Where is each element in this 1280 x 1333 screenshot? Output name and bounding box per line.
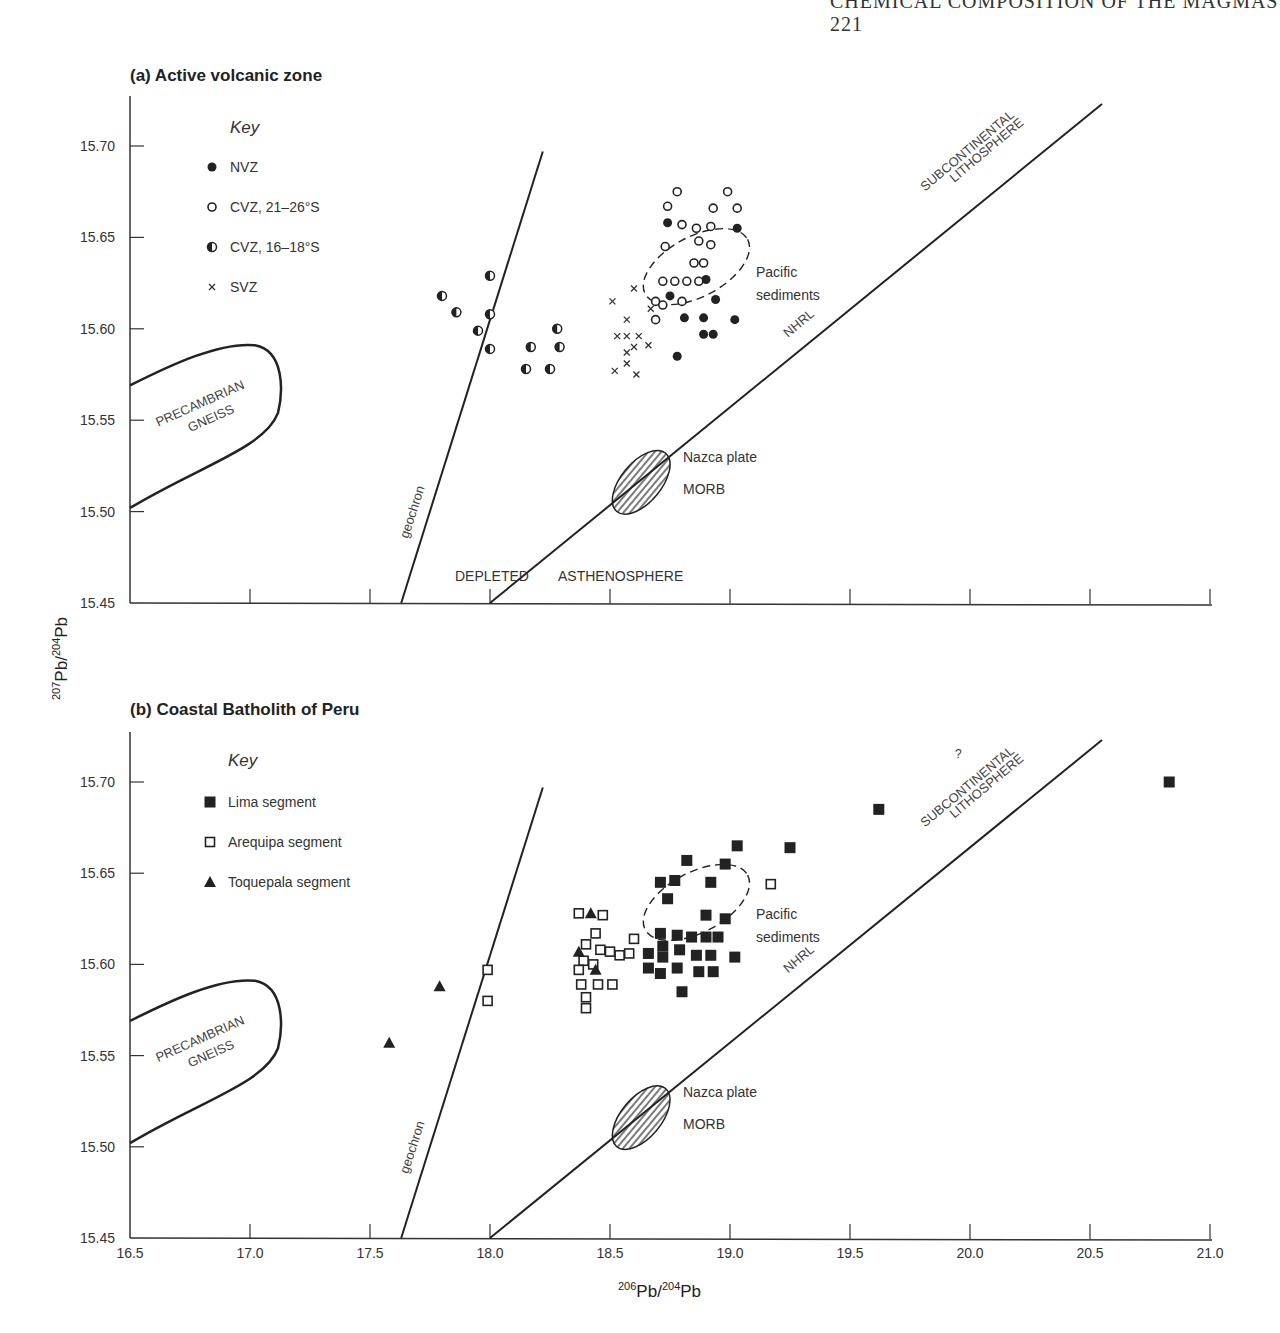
data-point	[661, 243, 669, 251]
data-point	[598, 911, 607, 920]
question-mark: ?	[955, 747, 962, 761]
legend-item: Arequipa segment	[206, 834, 342, 850]
data-point	[486, 271, 495, 280]
data-point	[673, 352, 682, 361]
data-point	[720, 913, 731, 924]
data-point	[643, 963, 654, 974]
data-point	[652, 316, 660, 324]
legend-item: CVZ, 16–18°S	[208, 239, 320, 255]
panel-b-plot: 15.4515.5015.5515.6015.6515.7016.517.017…	[80, 732, 1224, 1261]
x-tick-label: 17.5	[356, 1245, 383, 1261]
asthenosphere-label: ASTHENOSPHERE	[558, 568, 683, 584]
x-axis	[130, 603, 1212, 605]
nazca-morb-field	[601, 1076, 680, 1160]
data-point	[729, 952, 740, 963]
data-point	[631, 344, 637, 350]
data-point	[579, 956, 588, 965]
data-point	[659, 301, 667, 309]
data-point	[673, 188, 681, 196]
data-point	[711, 295, 720, 304]
data-point	[730, 315, 739, 324]
data-point	[526, 343, 535, 352]
data-point	[699, 313, 708, 322]
data-point	[678, 297, 686, 305]
data-point	[555, 343, 564, 352]
geochron-line	[401, 787, 543, 1238]
data-point	[574, 965, 583, 974]
data-point	[645, 342, 651, 348]
data-point	[785, 842, 796, 853]
data-point	[383, 1037, 395, 1048]
data-point	[1164, 777, 1175, 788]
legend-label: Lima segment	[228, 794, 316, 810]
data-point	[707, 222, 715, 230]
data-point	[553, 324, 562, 333]
nazca-label: Nazca plate	[683, 1084, 757, 1100]
data-point	[666, 291, 675, 300]
data-point	[708, 966, 719, 977]
data-point	[693, 966, 704, 977]
data-point	[434, 980, 446, 991]
pacific-label: Pacific	[756, 264, 797, 280]
legend-marker	[208, 203, 216, 211]
data-point	[452, 308, 461, 317]
legend-item: CVZ, 21–26°S	[208, 199, 320, 215]
x-axis	[130, 1238, 1212, 1240]
series-cvz-21-26-s	[652, 188, 742, 324]
data-point	[612, 368, 618, 374]
x-tick-label: 20.5	[1076, 1245, 1103, 1261]
data-point	[631, 286, 637, 292]
data-point	[681, 855, 692, 866]
data-point	[596, 945, 605, 954]
data-point	[625, 949, 634, 958]
legend-item: Toquepala segment	[204, 874, 350, 890]
legend-item: SVZ	[209, 279, 258, 295]
data-point	[648, 306, 654, 312]
data-point	[683, 277, 691, 285]
data-point	[486, 310, 495, 319]
nhrl-label: NHRL	[780, 942, 817, 976]
data-point	[483, 965, 492, 974]
data-point	[695, 237, 703, 245]
data-point	[699, 330, 708, 339]
data-point	[633, 372, 639, 378]
legend-label: Toquepala segment	[228, 874, 350, 890]
legend-item: Lima segment	[205, 794, 317, 810]
legend-label: SVZ	[230, 279, 258, 295]
data-point	[674, 944, 685, 955]
series-lima-segment	[643, 777, 1175, 998]
legend-title: Key	[230, 118, 261, 137]
legend-item: NVZ	[208, 159, 259, 175]
data-point	[636, 333, 642, 339]
legend-marker	[204, 876, 216, 887]
data-point	[577, 980, 586, 989]
data-point	[438, 291, 447, 300]
subcontinental-label: SUBCONTINENTAL	[917, 743, 1017, 830]
nazca-morb-field	[601, 440, 680, 524]
data-point	[677, 986, 688, 997]
data-point	[606, 947, 615, 956]
data-point	[720, 859, 731, 870]
data-point	[624, 350, 630, 356]
data-point	[700, 259, 708, 267]
data-point	[657, 952, 668, 963]
x-tick-label: 20.0	[956, 1245, 983, 1261]
svg-text:MORB: MORB	[683, 481, 725, 497]
y-tick-label: 15.55	[80, 1048, 115, 1064]
data-point	[486, 344, 495, 353]
data-point	[690, 259, 698, 267]
data-point	[474, 326, 483, 335]
data-point	[655, 968, 666, 979]
x-tick-label: 16.5	[116, 1245, 143, 1261]
data-point	[672, 930, 683, 941]
data-point	[766, 880, 775, 889]
chart-canvas: 15.4515.5015.5515.6015.6515.70PRECAMBRIA…	[0, 0, 1280, 1333]
depleted-label: DEPLETED	[455, 568, 529, 584]
data-point	[657, 941, 668, 952]
data-point	[664, 202, 672, 210]
series-toquepala-segment	[383, 907, 601, 1048]
data-point	[692, 224, 700, 232]
data-point	[680, 313, 689, 322]
x-tick-label: 19.0	[716, 1245, 743, 1261]
data-point	[713, 932, 724, 943]
